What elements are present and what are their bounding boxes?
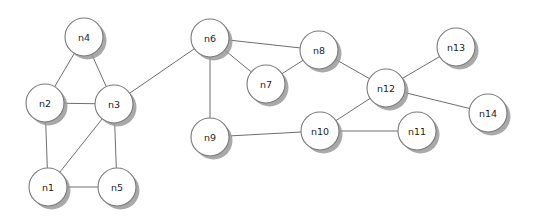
network-graph-diagram: n1n2n3n4n5n6n7n8n9n10n11n12n13n14 bbox=[0, 0, 536, 220]
graph-node-n5[interactable]: n5 bbox=[98, 168, 140, 210]
graph-edge bbox=[46, 121, 48, 168]
node-circle[interactable] bbox=[367, 69, 405, 107]
node-circle[interactable] bbox=[300, 31, 338, 69]
node-circle[interactable] bbox=[95, 85, 133, 123]
graph-node-n7[interactable]: n7 bbox=[247, 65, 289, 107]
node-circle[interactable] bbox=[191, 19, 229, 57]
graph-node-n2[interactable]: n2 bbox=[26, 84, 68, 126]
graph-node-n8[interactable]: n8 bbox=[300, 31, 342, 73]
graph-edge bbox=[54, 53, 74, 87]
graph-node-n12[interactable]: n12 bbox=[367, 69, 409, 111]
graph-edge bbox=[336, 98, 371, 121]
graph-edge bbox=[228, 132, 301, 136]
graph-svg-canvas: n1n2n3n4n5n6n7n8n9n10n11n12n13n14 bbox=[0, 0, 536, 220]
graph-node-n1[interactable]: n1 bbox=[29, 168, 71, 210]
graph-edge bbox=[402, 56, 440, 78]
node-circle[interactable] bbox=[191, 118, 229, 156]
graph-edge bbox=[282, 60, 304, 74]
graph-node-n13[interactable]: n13 bbox=[437, 28, 479, 70]
graph-node-n11[interactable]: n11 bbox=[398, 112, 440, 154]
node-circle[interactable] bbox=[98, 168, 136, 206]
node-circle[interactable] bbox=[398, 112, 436, 150]
node-layer: n1n2n3n4n5n6n7n8n9n10n11n12n13n14 bbox=[26, 18, 511, 210]
node-circle[interactable] bbox=[26, 84, 64, 122]
node-circle[interactable] bbox=[65, 18, 103, 56]
graph-node-n4[interactable]: n4 bbox=[65, 18, 107, 60]
graph-edge bbox=[60, 118, 103, 172]
graph-edge bbox=[404, 92, 470, 108]
graph-edge bbox=[335, 59, 370, 79]
node-circle[interactable] bbox=[301, 112, 339, 150]
graph-edge bbox=[228, 40, 300, 48]
node-circle[interactable] bbox=[29, 168, 67, 206]
node-circle[interactable] bbox=[437, 28, 475, 66]
node-circle[interactable] bbox=[469, 94, 507, 132]
graph-node-n14[interactable]: n14 bbox=[469, 94, 511, 136]
graph-node-n9[interactable]: n9 bbox=[191, 118, 233, 160]
node-circle[interactable] bbox=[247, 65, 285, 103]
graph-node-n10[interactable]: n10 bbox=[301, 112, 343, 154]
graph-edge bbox=[115, 122, 117, 168]
graph-node-n6[interactable]: n6 bbox=[191, 19, 233, 61]
graph-edge bbox=[92, 54, 107, 87]
graph-edge bbox=[129, 48, 195, 93]
